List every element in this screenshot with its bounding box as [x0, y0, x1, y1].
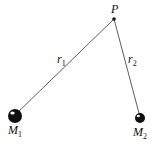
label-m2: M2	[132, 125, 147, 141]
label-r2-sub: 2	[133, 59, 137, 68]
label-r1: r1	[57, 52, 66, 68]
mass-m1-highlight	[10, 111, 14, 114]
mass-m2-highlight	[137, 115, 140, 117]
edge-r2	[114, 19, 140, 117]
mass-m2	[135, 113, 145, 123]
two-mass-diagram: P r1 r2 M1 M2	[0, 0, 154, 146]
point-p	[112, 17, 116, 21]
mass-m1	[8, 109, 22, 123]
label-r2: r2	[128, 52, 137, 68]
label-m1-sub: 1	[18, 130, 22, 139]
label-p: P	[110, 2, 119, 16]
label-m2-sub: 2	[143, 132, 147, 141]
label-m1: M1	[7, 123, 22, 139]
label-r1-sub: 1	[62, 59, 66, 68]
